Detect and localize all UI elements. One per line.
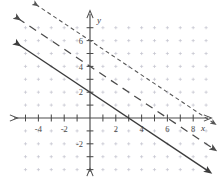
x-tick-label: 2 <box>114 124 118 134</box>
y-tick-label: 2 <box>79 87 83 97</box>
x-tick-label: 4 <box>139 124 144 134</box>
plot-area: -4-22468642-2 x y <box>0 0 220 181</box>
grid-dots <box>24 26 208 171</box>
x-axis-label: x <box>200 123 205 133</box>
series-solid-line <box>18 44 209 171</box>
series-short-dashed-line <box>36 4 214 123</box>
y-axis-label: y <box>96 15 101 25</box>
y-tick-label: -2 <box>76 139 83 149</box>
x-tick-label: 6 <box>165 124 169 134</box>
y-tick-label: 6 <box>79 36 83 46</box>
x-tick-label: 8 <box>191 124 195 134</box>
x-tick-label: -4 <box>35 124 43 134</box>
data-series-group <box>18 4 214 171</box>
coordinate-graph: -4-22468642-2 x y <box>0 0 220 181</box>
axes-group <box>14 14 208 172</box>
tick-marks <box>26 28 194 170</box>
x-tick-label: -2 <box>61 124 68 134</box>
y-tick-label: 4 <box>79 62 84 72</box>
